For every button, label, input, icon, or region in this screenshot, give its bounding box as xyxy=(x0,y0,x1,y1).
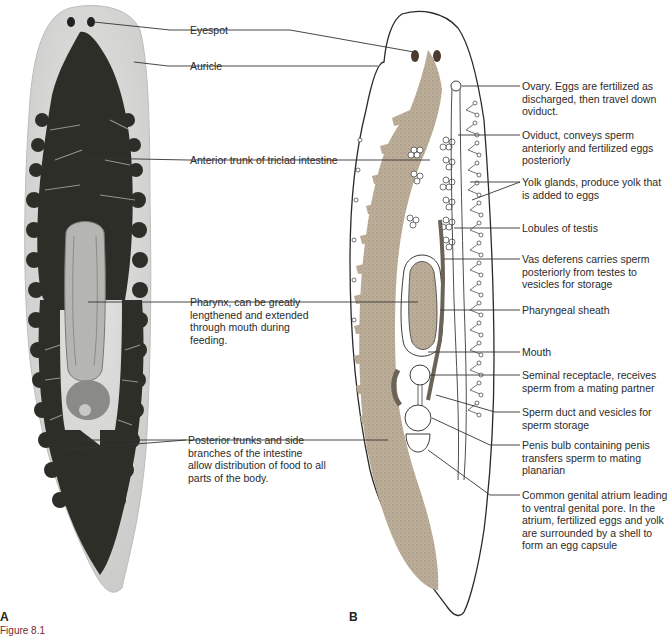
label-anterior-trunk: Anterior trunk of triclad intestine xyxy=(190,154,350,167)
photo-pharynx xyxy=(65,222,106,382)
label-genital-atrium: Common genital atrium leading to ventral… xyxy=(522,489,672,552)
label-ovary: Ovary. Eggs are fertilized as discharged… xyxy=(522,80,672,118)
label-auricle: Auricle xyxy=(190,60,222,73)
label-sperm-duct: Sperm duct and vesicles for sperm storag… xyxy=(522,406,672,431)
diagram-ovary xyxy=(451,81,461,91)
planarian-photo xyxy=(25,6,151,593)
label-penis-bulb: Penis bulb containing penis transfers sp… xyxy=(522,439,672,477)
label-vas-deferens: Vas deferens carries sperm posteriorly f… xyxy=(522,253,672,291)
diagram-penis-bulb xyxy=(405,405,431,431)
diagram-seminal-receptacle xyxy=(410,365,430,385)
label-pharyngeal-sheath: Pharyngeal sheath xyxy=(522,304,672,317)
label-posterior-trunks: Posterior trunks and side branches of th… xyxy=(188,434,328,484)
planarian-diagram xyxy=(350,11,494,615)
label-seminal-receptacle: Seminal receptacle, receives sperm from … xyxy=(522,369,672,394)
panel-a-letter: A xyxy=(0,610,9,624)
label-testis-lobules: Lobules of testis xyxy=(522,222,672,235)
label-eyespot: Eyespot xyxy=(190,24,228,37)
figure-caption: Figure 8.1 xyxy=(0,625,45,636)
panel-b-letter: B xyxy=(349,610,358,624)
diagram-eyespot-right xyxy=(433,50,441,62)
photo-eyespot-left xyxy=(67,17,75,27)
label-pharynx: Pharynx, can be greatly lengthened and e… xyxy=(190,296,330,346)
label-oviduct: Oviduct, conveys sperm anteriorly and fe… xyxy=(522,129,672,167)
label-mouth: Mouth xyxy=(522,346,672,359)
diagram-pharynx xyxy=(409,262,437,350)
photo-eyespot-right xyxy=(87,17,95,27)
label-yolk-glands: Yolk glands, produce yolk that is added … xyxy=(522,176,667,201)
